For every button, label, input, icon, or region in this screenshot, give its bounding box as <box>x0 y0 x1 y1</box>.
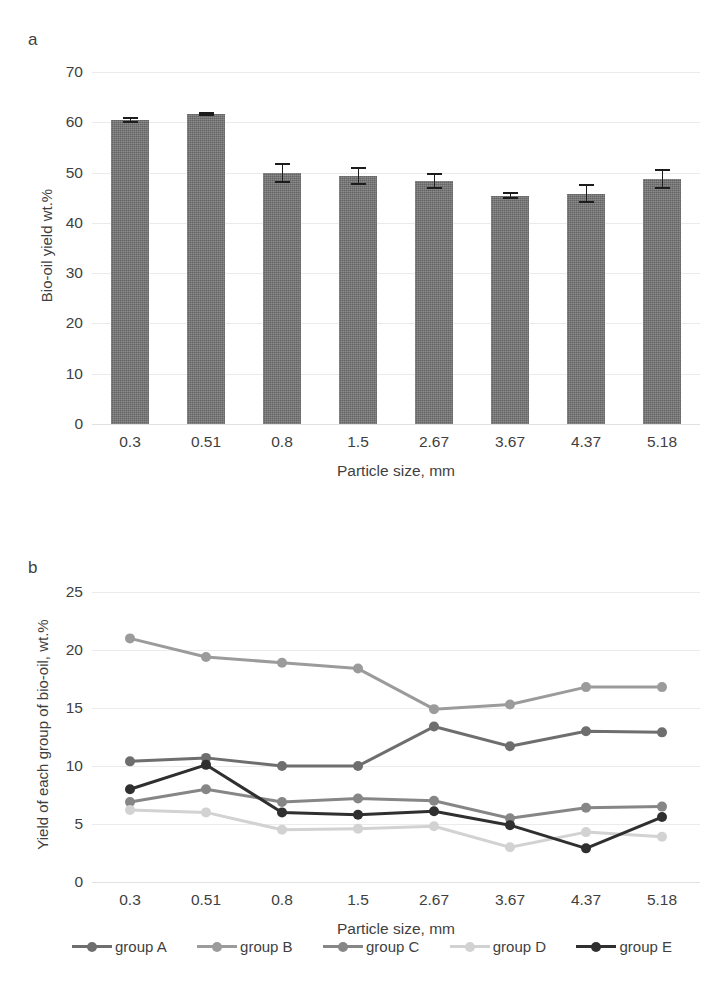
data-point <box>657 832 667 842</box>
data-point <box>125 784 135 794</box>
x-axis-tick-label: 0.51 <box>168 433 244 451</box>
error-bar <box>662 169 663 189</box>
panel-a-bar-chart: a 010203040506070 0.30.510.81.52.673.674… <box>0 0 723 510</box>
legend-dot <box>591 942 601 952</box>
data-point <box>125 756 135 766</box>
y-axis-tick-label: 20 <box>66 641 83 659</box>
legend-label: group A <box>115 938 167 955</box>
y-axis-tick-label: 10 <box>66 365 83 383</box>
bar-slot <box>92 72 168 424</box>
legend-item-group-a[interactable]: group A <box>72 938 167 955</box>
bar <box>111 120 149 424</box>
x-axis-tick-label: 5.18 <box>624 433 700 451</box>
error-bar <box>130 117 131 123</box>
bar-slot <box>624 72 700 424</box>
data-point <box>657 727 667 737</box>
legend-item-group-c[interactable]: group C <box>323 938 419 955</box>
legend-item-group-e[interactable]: group E <box>576 938 672 955</box>
panel-a-y-axis-title: Bio-oil yield wt.% <box>38 116 55 376</box>
data-point <box>125 805 135 815</box>
legend-marker-icon <box>323 941 363 953</box>
panel-b-x-axis: 0.30.510.81.52.673.674.375.18 <box>92 891 700 909</box>
data-point <box>353 761 363 771</box>
data-point <box>581 726 591 736</box>
x-axis-tick-label: 0.3 <box>92 891 168 909</box>
y-axis-tick-label: 60 <box>66 113 83 131</box>
x-axis-tick-label: 0.3 <box>92 433 168 451</box>
panel-b-legend: group Agroup Bgroup Cgroup Dgroup E <box>72 938 672 955</box>
legend-item-group-b[interactable]: group B <box>197 938 293 955</box>
x-axis-tick-label: 3.67 <box>472 891 548 909</box>
data-point <box>277 825 287 835</box>
legend-marker-icon <box>450 941 490 953</box>
gridline <box>92 882 700 883</box>
legend-marker-icon <box>576 941 616 953</box>
bar-slot <box>168 72 244 424</box>
data-point <box>505 700 515 710</box>
y-axis-tick-label: 15 <box>66 699 83 717</box>
legend-marker-icon <box>197 941 237 953</box>
data-point <box>429 722 439 732</box>
data-point <box>353 810 363 820</box>
legend-dot <box>212 942 222 952</box>
data-point <box>125 633 135 643</box>
error-bar <box>206 112 207 116</box>
bar <box>415 181 453 424</box>
error-bar <box>510 192 511 199</box>
x-axis-tick-label: 4.37 <box>548 433 624 451</box>
data-point <box>505 741 515 751</box>
data-point <box>201 784 211 794</box>
x-axis-tick-label: 2.67 <box>396 433 472 451</box>
x-axis-tick-label: 0.8 <box>244 433 320 451</box>
panel-a-x-axis: 0.30.510.81.52.673.674.375.18 <box>92 433 700 451</box>
bar-slot <box>472 72 548 424</box>
data-point <box>581 682 591 692</box>
figure-root: a 010203040506070 0.30.510.81.52.673.674… <box>0 0 723 994</box>
bar <box>263 173 301 424</box>
y-axis-tick-label: 50 <box>66 164 83 182</box>
bar-slot <box>548 72 624 424</box>
data-point <box>201 652 211 662</box>
legend-marker-icon <box>72 941 112 953</box>
error-bar <box>434 173 435 189</box>
data-point <box>429 806 439 816</box>
legend-label: group C <box>366 938 419 955</box>
panel-a-bars <box>92 72 700 424</box>
data-point <box>277 807 287 817</box>
y-axis-tick-label: 5 <box>74 815 83 833</box>
y-axis-tick-label: 10 <box>66 757 83 775</box>
data-point <box>581 827 591 837</box>
data-point <box>353 664 363 674</box>
data-point <box>201 760 211 770</box>
data-point <box>353 793 363 803</box>
error-bar <box>358 167 359 185</box>
panel-b-line-chart: b 0510152025 0.30.510.81.52.673.674.375.… <box>0 520 723 994</box>
y-axis-tick-label: 40 <box>66 214 83 232</box>
data-point <box>657 812 667 822</box>
legend-dot <box>87 942 97 952</box>
legend-dot <box>338 942 348 952</box>
series-line <box>130 638 662 709</box>
legend-label: group B <box>240 938 293 955</box>
panel-b-plot-area: 0510152025 0.30.510.81.52.673.674.375.18… <box>92 592 700 882</box>
x-axis-tick-label: 1.5 <box>320 891 396 909</box>
data-point <box>277 658 287 668</box>
x-axis-tick-label: 5.18 <box>624 891 700 909</box>
x-axis-tick-label: 1.5 <box>320 433 396 451</box>
x-axis-tick-label: 4.37 <box>548 891 624 909</box>
error-bar <box>586 184 587 203</box>
gridline <box>92 424 700 425</box>
x-axis-tick-label: 0.8 <box>244 891 320 909</box>
data-point <box>581 803 591 813</box>
legend-item-group-d[interactable]: group D <box>450 938 546 955</box>
error-bar <box>282 163 283 183</box>
panel-a-label: a <box>28 30 37 50</box>
x-axis-tick-label: 3.67 <box>472 433 548 451</box>
data-point <box>353 824 363 834</box>
y-axis-tick-label: 70 <box>66 63 83 81</box>
x-axis-tick-label: 0.51 <box>168 891 244 909</box>
x-axis-tick-label: 2.67 <box>396 891 472 909</box>
data-point <box>657 802 667 812</box>
y-axis-tick-label: 0 <box>74 415 83 433</box>
bar-slot <box>244 72 320 424</box>
